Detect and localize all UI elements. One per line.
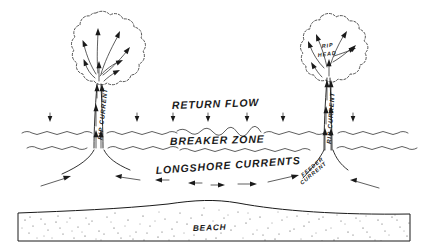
rip-current-neck-left: RIP CURRENT [94,84,109,148]
wavy-line-upper-seg5 [338,132,408,135]
down-arrow [281,113,286,122]
longshore-arrow-toward-right-rip [268,175,299,183]
beach-profile-line [18,200,410,241]
down-arrow [245,113,250,122]
down-arrow [135,113,140,122]
feeder-funnel-right: FEEDER CURRENT [299,150,348,186]
wavy-line-lower-seg2 [108,147,178,150]
rip-current-label-left: RIP CURRENT [96,87,108,140]
wavy-line-lower-seg1 [27,147,87,150]
down-arrow [351,113,356,122]
rip-head-label-line1: RIP [321,42,333,49]
down-arrow [206,113,211,122]
beach-label: BEACH [193,223,227,233]
return-flow-label: RETURN FLOW [172,96,260,111]
return-flow-down-arrows [48,113,356,122]
longshore-arrow-toward-left-rip [115,174,140,180]
wavy-line-lower-seg3 [180,149,310,152]
wavy-line-lower-seg4 [337,147,417,150]
longshore-arrow-3-right [211,183,225,188]
rip-current-label-right: RIP CURRENT [325,91,336,144]
down-arrow [48,113,53,122]
longshore-current-arrows [41,174,379,188]
rip-current-neck-right: RIP CURRENT [323,78,336,150]
longshore-arrow-1-left [155,178,169,183]
longshore-arrow-2-left [188,181,202,186]
diagram-canvas: RIP CURRENT RIP HEAD [0,0,427,248]
rip-current-diagram: RIP CURRENT RIP HEAD [0,0,427,248]
longshore-currents-label: LONGSHORE CURRENTS [155,154,301,176]
wavy-line-upper-seg4 [264,132,324,135]
cloud-arrows-left [83,28,131,81]
wavy-line-upper-seg2 [107,132,177,135]
beach-region: BEACH [18,200,410,242]
longshore-arrow-inflow-right [350,178,379,188]
rip-head-label-line2: HEAD [317,50,336,58]
longshore-arrow-inflow-left [41,176,71,186]
rip-head-cloud-right: RIP HEAD [300,13,367,82]
longshore-arrow-4-right [238,182,257,187]
rip-head-cloud-left [71,11,145,84]
feeder-funnel-left [62,150,130,174]
down-arrow [171,113,176,122]
breaker-zone-label: BREAKER ZONE [170,133,265,147]
wavy-line-upper-seg1 [22,132,92,135]
